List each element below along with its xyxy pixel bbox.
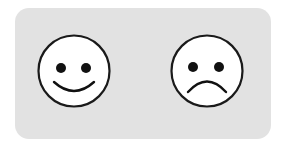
left-eye — [188, 62, 198, 72]
smiley-face-icon — [39, 36, 110, 107]
happy-face[interactable] — [39, 36, 110, 107]
faces-canvas — [0, 0, 285, 150]
left-eye — [56, 63, 66, 73]
right-eye — [81, 63, 91, 73]
frowning-face-icon — [172, 36, 243, 107]
sad-face[interactable] — [172, 36, 243, 107]
right-eye — [214, 62, 224, 72]
